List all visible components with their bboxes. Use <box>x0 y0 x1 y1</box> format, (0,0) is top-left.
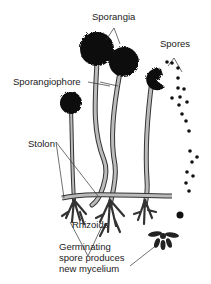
label-germinating-line3: new mycelium <box>59 263 119 274</box>
label-sporangiophore: Sporangiophore <box>13 76 81 87</box>
label-rhizoids: Rhizoids <box>72 219 108 230</box>
sporangiophores <box>71 62 152 205</box>
mold-diagram: Sporangia Spores Sporangiophore Stolon R… <box>0 0 211 284</box>
label-sporangia: Sporangia <box>92 11 135 22</box>
rhizoids-drawing <box>62 200 156 236</box>
label-spores: Spores <box>160 38 190 49</box>
label-stolon: Stolon <box>28 138 55 149</box>
label-germinating-line2: spore produces <box>59 252 124 263</box>
stolon-drawing <box>62 195 172 198</box>
label-germinating-line1: Germinating <box>59 241 111 252</box>
germinating-spore-drawing <box>148 231 180 250</box>
